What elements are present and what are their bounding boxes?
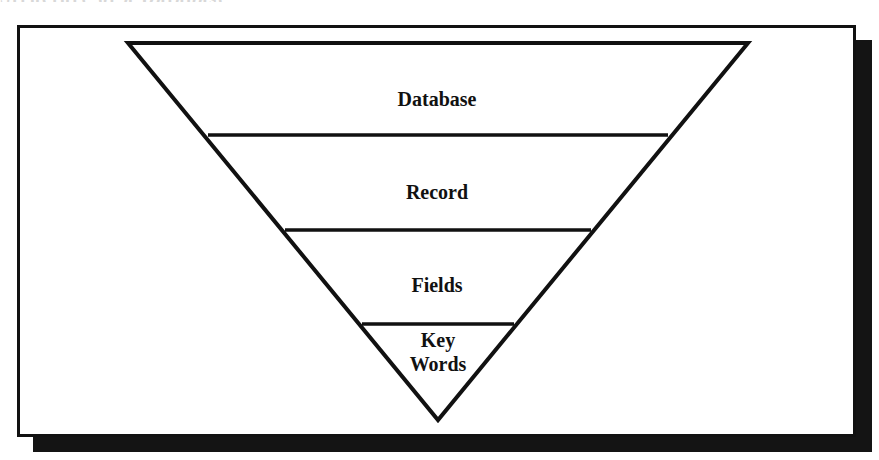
level-label-key: Key	[421, 329, 455, 352]
inverted-pyramid-diagram: Database Record Fields Key Words	[0, 0, 879, 460]
level-label-database: Database	[398, 88, 477, 110]
level-label-record: Record	[406, 181, 468, 203]
level-label-words: Words	[410, 353, 467, 375]
level-label-fields: Fields	[411, 274, 462, 296]
